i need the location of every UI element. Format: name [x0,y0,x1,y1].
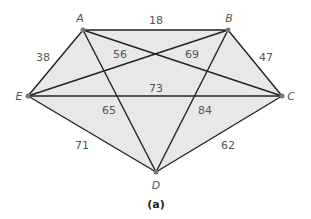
vertex-label-D: D [152,179,160,192]
vertex-label-E: E [16,90,23,103]
edge-weight-EB: 69 [185,48,199,61]
figure-caption: (a) [147,198,164,211]
edge-weight-CD: 62 [221,139,235,152]
edge-weight-ED: 71 [75,139,89,152]
edge-weight-EC: 73 [149,82,163,95]
vertex-D [154,170,159,175]
edge-weight-AC: 56 [113,48,127,61]
edge-weight-BC: 47 [259,51,273,64]
weighted-complete-graph: 18384771625669736584 ABCDE (a) [0,0,311,219]
vertex-label-A: A [75,12,84,25]
edge-weight-AB: 18 [149,14,163,27]
edge-weight-BD: 84 [198,104,212,117]
vertex-B [226,28,231,33]
vertex-E [26,94,31,99]
edge-weight-AD: 65 [102,104,116,117]
vertex-C [280,94,285,99]
vertex-A [81,28,86,33]
vertex-label-B: B [225,12,233,25]
vertex-label-C: C [287,90,295,103]
edge-weight-AE: 38 [36,51,50,64]
